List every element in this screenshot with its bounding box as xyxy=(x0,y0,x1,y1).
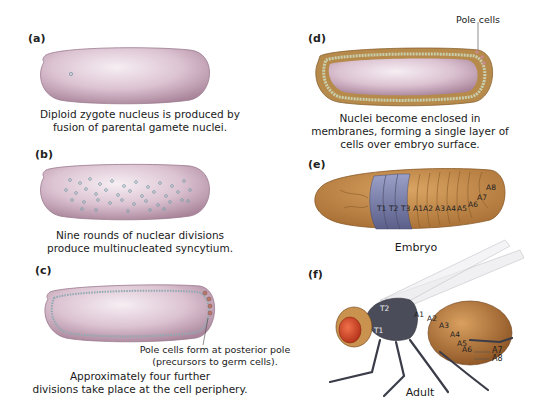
fly-segment-t2: T2 xyxy=(380,304,389,313)
egg-panel-c xyxy=(45,285,215,345)
fly-segment-a1: A1 xyxy=(414,310,424,319)
caption-d: Nuclei become enclosed in membranes, for… xyxy=(290,112,530,151)
caption-b-line2: produce multinucleated syncytium. xyxy=(18,242,262,255)
panel-label-a: (a) xyxy=(28,32,45,45)
callout-c-line2: (precursors to germ cells). xyxy=(130,356,300,368)
segment-a7: A7 xyxy=(477,193,487,202)
segment-a3: A3 xyxy=(435,204,445,213)
fly-segment-a4: A4 xyxy=(450,330,460,339)
fly-segment-a3: A3 xyxy=(439,321,449,330)
caption-c: Approximately four further divisions tak… xyxy=(18,370,262,396)
egg-panel-b xyxy=(41,164,210,219)
fly-segment-a6: A6 xyxy=(462,345,472,354)
segment-t1: T1 xyxy=(377,204,386,213)
caption-d-line1: Nuclei become enclosed in xyxy=(290,112,530,125)
fly-segment-t1: T1 xyxy=(374,326,383,335)
panel-label-e: (e) xyxy=(308,158,326,171)
caption-d-line2: membranes, forming a single layer of xyxy=(290,125,530,138)
panel-label-b: (b) xyxy=(35,148,53,161)
caption-c-line1: Approximately four further xyxy=(18,370,262,383)
pole-cells-label-d: Pole cells xyxy=(456,14,500,25)
segment-a2: A2 xyxy=(423,204,433,213)
panel-label-f: (f) xyxy=(308,268,323,281)
fly-callout-a8: A8 xyxy=(492,354,503,363)
thoracic-segments xyxy=(370,174,412,229)
segment-a5: A5 xyxy=(457,204,467,213)
caption-a: Diploid zygote nucleus is produced by fu… xyxy=(18,108,262,134)
caption-e: Embryo xyxy=(376,241,456,254)
fly-eye-icon xyxy=(339,317,361,343)
caption-b-line1: Nine rounds of nuclear divisions xyxy=(18,229,262,242)
segment-a8: A8 xyxy=(486,183,496,192)
segment-t3: T3 xyxy=(401,204,410,213)
segment-a1: A1 xyxy=(413,204,423,213)
caption-b: Nine rounds of nuclear divisions produce… xyxy=(18,229,262,255)
panel-label-c: (c) xyxy=(35,264,52,277)
callout-c-line1: Pole cells form at posterior pole xyxy=(130,344,300,356)
egg-panel-a xyxy=(41,48,210,104)
caption-f: Adult xyxy=(390,386,450,399)
egg-panel-d xyxy=(316,22,493,106)
caption-a-line1: Diploid zygote nucleus is produced by xyxy=(18,108,262,121)
segment-a4: A4 xyxy=(446,204,456,213)
caption-c-line2: divisions take place at the cell periphe… xyxy=(18,383,262,396)
callout-c: Pole cells form at posterior pole (precu… xyxy=(130,344,300,368)
caption-a-line2: fusion of parental gamete nuclei. xyxy=(18,121,262,134)
fly-segment-a2: A2 xyxy=(427,314,437,323)
segment-t2: T2 xyxy=(389,204,398,213)
panel-label-d: (d) xyxy=(308,32,326,45)
caption-d-line3: cells over embryo surface. xyxy=(290,138,530,151)
